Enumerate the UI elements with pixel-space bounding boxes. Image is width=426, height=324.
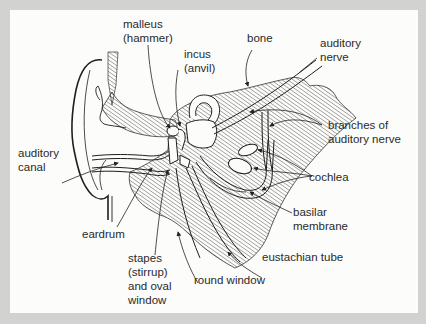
- label-stapes: stapes (stirrup) and oval window: [128, 251, 171, 307]
- label-auditory-canal: auditory canal: [18, 146, 59, 174]
- label-basilar-membrane: basilar membrane: [293, 205, 348, 233]
- label-auditory-nerve: auditory nerve: [320, 36, 361, 64]
- figure-frame: malleus (hammer) incus (anvil) bone audi…: [0, 0, 426, 324]
- bone-mass: [102, 52, 356, 268]
- label-bone: bone: [247, 31, 273, 45]
- pinna: [72, 60, 126, 222]
- label-round-window: round window: [194, 273, 265, 287]
- label-eustachian-tube: eustachian tube: [262, 250, 343, 264]
- label-branches-of-auditory-nerve: branches of auditory nerve: [328, 118, 401, 146]
- label-incus: incus (anvil): [184, 47, 215, 75]
- label-malleus: malleus (hammer): [123, 17, 173, 45]
- label-cochlea: cochlea: [309, 170, 349, 184]
- label-eardrum: eardrum: [82, 227, 125, 241]
